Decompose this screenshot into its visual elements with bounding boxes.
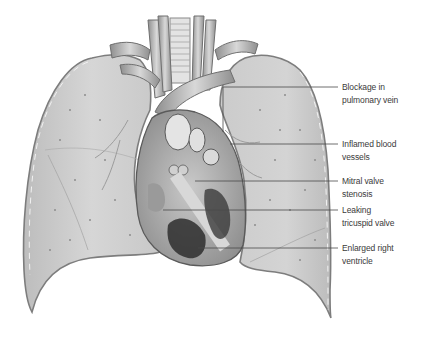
label-line-1: Blockage in (342, 81, 398, 94)
label-line-1: Enlarged right (342, 242, 394, 255)
heart-lungs-illustration (0, 0, 423, 337)
label-enlarged-right-ventricle: Enlarged right ventricle (342, 242, 394, 267)
label-mitral-valve-stenosis: Mitral valve stenosis (342, 175, 384, 200)
label-line-1: Leaking (342, 204, 394, 217)
label-line-2: ventricle (342, 255, 394, 268)
label-line-2: stenosis (342, 188, 384, 201)
label-inflamed-blood-vessels: Inflamed blood vessels (342, 138, 396, 163)
label-line-1: Mitral valve (342, 175, 384, 188)
label-line-2: pulmonary vein (342, 94, 398, 107)
label-leaking-tricuspid-valve: Leaking tricuspid valve (342, 204, 394, 229)
label-line-2: vessels (342, 151, 396, 164)
label-blockage-pulmonary-vein: Blockage in pulmonary vein (342, 81, 398, 106)
label-line-1: Inflamed blood (342, 138, 396, 151)
trachea (170, 18, 190, 83)
label-line-2: tricuspid valve (342, 217, 394, 230)
